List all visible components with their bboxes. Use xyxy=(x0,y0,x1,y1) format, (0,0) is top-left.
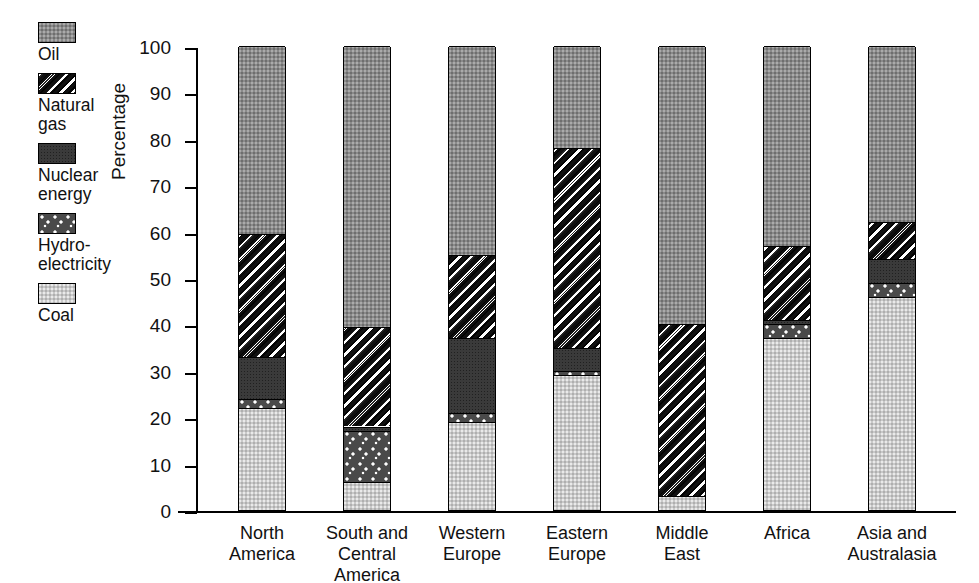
bar-segment-hydro[interactable] xyxy=(239,399,285,408)
y-axis-tick-label: 60 xyxy=(150,223,171,245)
bar-stack[interactable] xyxy=(868,47,916,511)
bar-stack[interactable] xyxy=(553,47,601,511)
segment-divider xyxy=(449,413,495,414)
y-axis-tick-label: 90 xyxy=(150,83,171,105)
y-axis-tick: 30 xyxy=(185,373,197,375)
segment-divider xyxy=(554,371,600,372)
segment-divider xyxy=(869,259,915,260)
bar-stack[interactable] xyxy=(343,47,391,511)
legend-item-label: Nuclear energy xyxy=(38,166,158,204)
bar-segment-oil[interactable] xyxy=(239,46,285,234)
segment-divider xyxy=(764,324,810,325)
y-axis-tick: 80 xyxy=(185,141,197,143)
y-axis-tick-label: 50 xyxy=(150,269,171,291)
legend-item-label: Coal xyxy=(38,306,158,325)
legend-swatch-coal-icon xyxy=(38,283,76,304)
y-axis-tick: 40 xyxy=(185,326,197,328)
y-axis-tick: 10 xyxy=(185,466,197,468)
bar-segment-nuclear[interactable] xyxy=(869,259,915,282)
bar-stack[interactable] xyxy=(658,47,706,511)
bar-segment-gas[interactable] xyxy=(344,327,390,427)
segment-divider xyxy=(449,338,495,339)
bar-segment-gas[interactable] xyxy=(449,255,495,339)
y-axis-tick-label: 100 xyxy=(139,37,171,59)
segment-divider xyxy=(659,324,705,325)
chart-legend: OilNatural gasNuclear energyHydro- elect… xyxy=(38,22,158,334)
legend-item: Nuclear energy xyxy=(38,143,158,204)
y-axis-tick: 100 xyxy=(185,48,197,50)
legend-item: Hydro- electricity xyxy=(38,213,158,274)
y-axis-tick: 70 xyxy=(185,187,197,189)
bar-segment-nuclear[interactable] xyxy=(764,320,810,325)
bar-segment-nuclear[interactable] xyxy=(344,427,390,432)
bar-segment-nuclear[interactable] xyxy=(554,348,600,371)
segment-divider xyxy=(239,46,285,47)
segment-divider xyxy=(659,46,705,47)
segment-divider xyxy=(239,408,285,409)
y-axis-tick-label: 80 xyxy=(150,130,171,152)
segment-divider xyxy=(764,320,810,321)
bar-segment-hydro[interactable] xyxy=(344,431,390,482)
segment-divider xyxy=(449,422,495,423)
y-axis-tick-label: 40 xyxy=(150,315,171,337)
legend-swatch-hydroelectricity-icon xyxy=(38,213,76,234)
y-axis-tick-label: 20 xyxy=(150,408,171,430)
bar-segment-oil[interactable] xyxy=(344,46,390,327)
segment-divider xyxy=(869,297,915,298)
bar-segment-nuclear[interactable] xyxy=(449,338,495,412)
y-axis-tick-label: 0 xyxy=(160,501,171,523)
bar-segment-coal[interactable] xyxy=(764,338,810,510)
bar-segment-gas[interactable] xyxy=(239,234,285,357)
bar-segment-oil[interactable] xyxy=(764,46,810,246)
segment-divider xyxy=(344,482,390,483)
bar-stack[interactable] xyxy=(763,47,811,511)
bar-segment-hydro[interactable] xyxy=(554,371,600,376)
segment-divider xyxy=(554,148,600,149)
segment-divider xyxy=(239,399,285,400)
segment-divider xyxy=(344,327,390,328)
bar-segment-gas[interactable] xyxy=(554,148,600,348)
segment-divider xyxy=(869,283,915,284)
bar-segment-coal[interactable] xyxy=(449,422,495,510)
bar-segment-coal[interactable] xyxy=(344,482,390,510)
bar-segment-hydro[interactable] xyxy=(764,324,810,338)
bar-segment-coal[interactable] xyxy=(554,375,600,510)
y-axis-tick: 0 xyxy=(185,512,197,514)
bar-segment-oil[interactable] xyxy=(659,46,705,324)
segment-divider xyxy=(764,46,810,47)
legend-swatch-natural-gas-icon xyxy=(38,73,76,94)
segment-divider xyxy=(869,222,915,223)
segment-divider xyxy=(239,357,285,358)
bar-segment-hydro[interactable] xyxy=(449,413,495,422)
segment-divider xyxy=(554,46,600,47)
segment-divider xyxy=(764,246,810,247)
bar-segment-hydro[interactable] xyxy=(869,283,915,297)
bar-segment-oil[interactable] xyxy=(554,46,600,148)
bar-stack[interactable] xyxy=(448,47,496,511)
bar-segment-coal[interactable] xyxy=(869,297,915,510)
y-axis-tick-label: 10 xyxy=(150,455,171,477)
bar-segment-gas[interactable] xyxy=(659,324,705,496)
segment-divider xyxy=(344,427,390,428)
y-axis-tick-label: 70 xyxy=(150,176,171,198)
segment-divider xyxy=(344,431,390,432)
bar-segment-coal[interactable] xyxy=(239,408,285,510)
bar-segment-gas[interactable] xyxy=(869,222,915,259)
segment-divider xyxy=(449,46,495,47)
bar-segment-oil[interactable] xyxy=(449,46,495,255)
x-axis-line xyxy=(178,511,956,513)
segment-divider xyxy=(344,46,390,47)
y-axis-tick: 20 xyxy=(185,419,197,421)
bar-segment-gas[interactable] xyxy=(764,246,810,320)
legend-item: Natural gas xyxy=(38,73,158,134)
segment-divider xyxy=(554,375,600,376)
bar-stack[interactable] xyxy=(238,47,286,511)
legend-swatch-oil-icon xyxy=(38,22,76,43)
y-axis-tick: 60 xyxy=(185,234,197,236)
y-axis-title: Percentage xyxy=(108,83,130,180)
bar-segment-oil[interactable] xyxy=(869,46,915,222)
legend-item-label: Natural gas xyxy=(38,96,158,134)
bar-segment-coal[interactable] xyxy=(659,496,705,510)
segment-divider xyxy=(239,234,285,235)
bar-segment-nuclear[interactable] xyxy=(239,357,285,399)
